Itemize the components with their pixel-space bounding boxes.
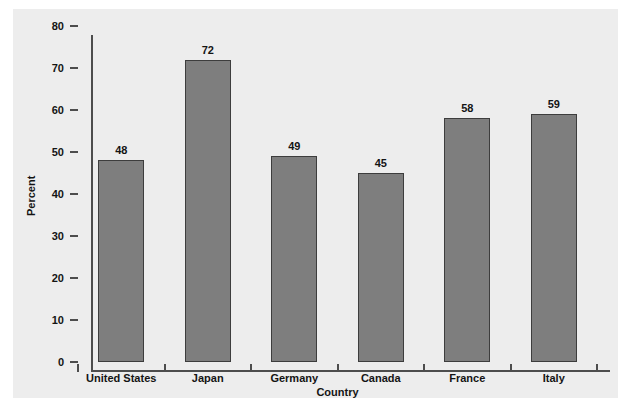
x-axis-title: Country [78, 386, 597, 398]
y-axis-tick [70, 235, 78, 237]
x-axis-tick [596, 364, 598, 372]
y-axis-tick [70, 25, 78, 27]
bar [98, 160, 144, 362]
bar [185, 60, 231, 362]
bar-value-label: 59 [529, 99, 579, 110]
bar [444, 118, 490, 362]
x-axis-category-label: France [424, 372, 511, 384]
plot-area [78, 26, 597, 362]
y-axis-tick [70, 277, 78, 279]
bar-value-label: 72 [183, 45, 233, 56]
y-axis-tick [70, 151, 78, 153]
x-axis-tick [250, 364, 252, 372]
y-axis-tick-label: 50 [14, 147, 64, 158]
y-axis-tick-label: 60 [14, 105, 64, 116]
y-axis-tick-label: 0 [14, 357, 64, 368]
y-axis-tick [70, 67, 78, 69]
x-axis-category-label: Germany [251, 372, 338, 384]
y-axis-tick [70, 193, 78, 195]
x-axis-tick [77, 364, 79, 372]
y-axis-tick-label: 80 [14, 21, 64, 32]
x-axis-tick [337, 364, 339, 372]
x-axis-tick [164, 364, 166, 372]
y-axis-tick-label: 70 [14, 63, 64, 74]
x-axis-category-label: Canada [338, 372, 425, 384]
bar [271, 156, 317, 362]
bar-value-label: 49 [269, 141, 319, 152]
y-axis-tick-label: 40 [14, 189, 64, 200]
y-axis-tick [70, 361, 78, 363]
x-axis-category-label: Japan [165, 372, 252, 384]
x-axis-category-label: United States [78, 372, 165, 384]
bar [358, 173, 404, 362]
y-axis-tick-label: 20 [14, 273, 64, 284]
bar-value-label: 58 [442, 103, 492, 114]
bar-value-label: 45 [356, 158, 406, 169]
y-axis-tick [70, 109, 78, 111]
bar-value-label: 48 [96, 145, 146, 156]
y-axis-tick-label: 10 [14, 315, 64, 326]
x-axis-category-label: Italy [511, 372, 598, 384]
chart-panel: Percent 01020304050607080 United StatesJ… [13, 9, 618, 398]
x-axis-tick [423, 364, 425, 372]
y-axis-tick-label: 30 [14, 231, 64, 242]
chart-figure: Percent 01020304050607080 United StatesJ… [0, 0, 631, 415]
x-axis-tick [510, 364, 512, 372]
y-axis-tick [70, 319, 78, 321]
bar [531, 114, 577, 362]
